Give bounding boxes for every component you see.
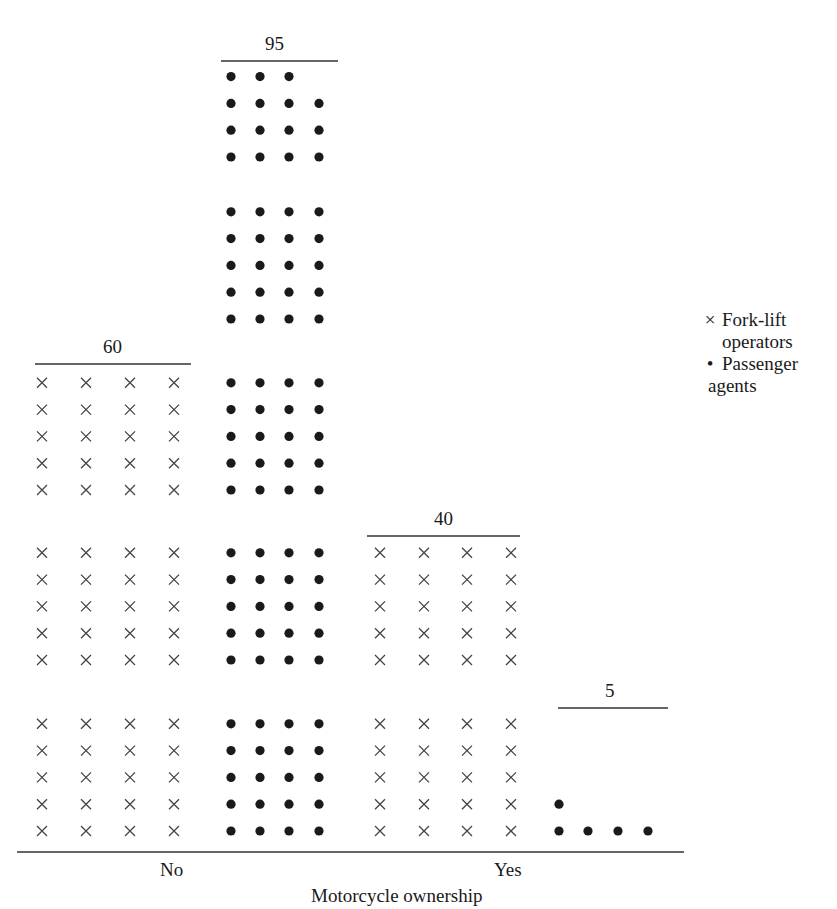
cross-marker-icon <box>419 799 429 809</box>
dot-marker-icon <box>314 485 323 494</box>
cross-marker-icon <box>419 719 429 729</box>
dot-marker-icon <box>284 234 293 243</box>
legend-label-forklift-line1: Fork-lift <box>722 309 786 330</box>
dot-marker-icon: • <box>698 353 722 375</box>
dot-marker-icon <box>255 99 264 108</box>
dot-marker-icon <box>284 207 293 216</box>
cross-marker-icon <box>37 575 47 585</box>
dot-marker-icon <box>255 548 264 557</box>
dot-marker-icon <box>226 602 235 611</box>
cross-marker-icon <box>37 431 47 441</box>
dot-marker-icon <box>314 314 323 323</box>
dot-marker-icon <box>226 378 235 387</box>
dot-marker-icon <box>255 126 264 135</box>
category-label-yes: Yes <box>494 860 522 879</box>
cross-marker-icon <box>506 655 516 665</box>
cross-marker-icon <box>462 655 472 665</box>
cross-marker-icon <box>37 655 47 665</box>
cross-marker-icon <box>375 746 385 756</box>
dot-marker-icon <box>314 575 323 584</box>
cross-marker-icon <box>169 575 179 585</box>
dot-marker-icon <box>314 602 323 611</box>
cross-marker-icon <box>81 772 91 782</box>
cross-marker-icon <box>462 601 472 611</box>
dot-marker-icon <box>314 459 323 468</box>
cross-marker-icon <box>375 548 385 558</box>
x-axis-title: Motorcycle ownership <box>311 886 482 905</box>
cross-marker-icon <box>375 799 385 809</box>
cross-marker-icon <box>506 772 516 782</box>
dot-marker-icon <box>284 746 293 755</box>
cross-marker-icon <box>419 746 429 756</box>
cross-marker-icon <box>462 746 472 756</box>
dot-marker-icon <box>226 719 235 728</box>
cross-marker-icon <box>125 458 135 468</box>
dot-marker-icon <box>226 655 235 664</box>
dot-marker-icon <box>255 207 264 216</box>
cross-marker-icon <box>169 431 179 441</box>
cross-marker-icon <box>37 601 47 611</box>
cross-marker-icon <box>81 575 91 585</box>
dot-marker-icon <box>554 800 563 809</box>
cross-marker-icon <box>169 799 179 809</box>
dot-marker-icon <box>314 378 323 387</box>
dot-marker-icon <box>314 548 323 557</box>
cross-marker-icon <box>375 719 385 729</box>
cross-marker-icon <box>169 601 179 611</box>
cross-marker-icon <box>125 548 135 558</box>
cross-marker-icon <box>37 772 47 782</box>
dot-marker-icon <box>314 655 323 664</box>
cross-marker-icon <box>375 628 385 638</box>
dot-marker-icon <box>284 99 293 108</box>
dot-marker-icon <box>284 432 293 441</box>
dot-marker-icon <box>314 99 323 108</box>
legend: × Fork-lift operators • Passenger agents <box>698 309 798 397</box>
dot-marker-icon <box>255 405 264 414</box>
cross-marker-icon <box>506 719 516 729</box>
cross-marker-icon <box>125 719 135 729</box>
dot-marker-icon <box>284 405 293 414</box>
dot-marker-icon <box>226 207 235 216</box>
cross-marker-icon <box>125 575 135 585</box>
dot-marker-icon <box>314 773 323 782</box>
dot-marker-icon <box>226 575 235 584</box>
dot-marker-icon <box>226 99 235 108</box>
dot-marker-icon <box>226 800 235 809</box>
cross-marker-icon <box>506 575 516 585</box>
cross-marker-icon <box>506 826 516 836</box>
cross-marker-icon <box>81 378 91 388</box>
dot-marker-icon <box>255 655 264 664</box>
dot-marker-icon <box>226 72 235 81</box>
dot-marker-icon <box>314 800 323 809</box>
dot-marker-icon <box>284 826 293 835</box>
dot-marker-icon <box>255 152 264 161</box>
pictogram-chart <box>0 0 837 909</box>
dot-marker-icon <box>583 826 592 835</box>
cross-marker-icon <box>81 405 91 415</box>
cross-marker-icon <box>37 746 47 756</box>
dot-marker-icon <box>255 746 264 755</box>
cross-marker-icon <box>375 772 385 782</box>
cross-marker-icon <box>375 575 385 585</box>
dot-marker-icon <box>554 826 563 835</box>
dot-marker-icon <box>226 773 235 782</box>
cross-marker-icon <box>462 799 472 809</box>
cross-marker-icon <box>169 548 179 558</box>
total-label-yes-forklift: 40 <box>434 509 453 528</box>
cross-marker-icon <box>81 485 91 495</box>
cross-marker-icon <box>81 458 91 468</box>
dot-marker-icon <box>284 800 293 809</box>
cross-marker-icon <box>462 628 472 638</box>
cross-marker-icon <box>81 655 91 665</box>
cross-marker-icon <box>125 628 135 638</box>
cross-marker-icon <box>506 548 516 558</box>
legend-item-passenger: • Passenger agents <box>698 353 798 397</box>
dot-marker-icon <box>226 152 235 161</box>
cross-marker-icon <box>37 458 47 468</box>
cross-marker-icon <box>125 772 135 782</box>
dot-marker-icon <box>226 432 235 441</box>
dot-marker-icon <box>314 719 323 728</box>
cross-marker-icon <box>462 772 472 782</box>
cross-marker-icon <box>37 485 47 495</box>
dot-marker-icon <box>284 655 293 664</box>
